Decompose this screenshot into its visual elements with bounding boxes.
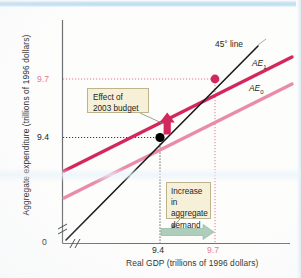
annotation-increase-line-2: aggregate	[171, 208, 207, 219]
series-label-ae0-sub: 0	[260, 89, 263, 95]
series-label-ae1-text: AE	[252, 58, 263, 68]
x-axis-label: Real GDP (trillions of 1996 dollars)	[126, 258, 258, 268]
point-new-equilibrium	[211, 75, 220, 84]
annotation-increase-line-1: Increase in	[171, 186, 207, 208]
y-tick-label-9-7: 9.7	[37, 74, 49, 84]
reference-line-label: 45° line	[215, 39, 243, 49]
origin-label: 0	[42, 237, 47, 247]
annotation-effect-line-2: 2003 budget	[93, 103, 144, 114]
series-label-ae1-sub: 1	[263, 64, 266, 70]
series-label-ae0: AE0	[249, 83, 264, 95]
chart-figure: Aggregate expenditure (trillions of 1996…	[0, 0, 301, 278]
series-label-ae1: AE1	[252, 58, 267, 70]
series-label-ae0-text: AE	[249, 83, 260, 93]
y-axis-label: Aggregate expenditure (trillions of 1996…	[21, 15, 31, 235]
leader-line-effect	[140, 113, 164, 124]
annotation-increase-line-3: demand	[171, 220, 207, 231]
annotation-effect-of-2003-budget: Effect of 2003 budget	[87, 88, 149, 113]
x-tick-label-9-4: 9.4	[152, 245, 164, 255]
pointer-45-line	[258, 39, 266, 45]
annotation-effect-line-1: Effect of	[93, 92, 144, 103]
annotation-increase-in-aggregate-demand: Increase in aggregate demand	[166, 182, 211, 219]
point-initial-equilibrium	[155, 133, 164, 142]
x-tick-label-9-7: 9.7	[207, 245, 219, 255]
y-tick-label-9-4: 9.4	[37, 132, 49, 142]
series-line-45-degree	[66, 46, 258, 240]
